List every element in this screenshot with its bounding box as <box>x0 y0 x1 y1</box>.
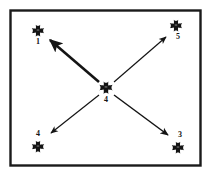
node-label-4-bottom-left: 4 <box>36 130 40 138</box>
arrow-center-to-bottom-right <box>114 95 168 135</box>
arrow-center-to-top-right <box>114 37 166 82</box>
figure-container: 1 5 4 4 3 <box>0 0 211 176</box>
cross-pattee-icon <box>32 141 44 153</box>
cross-pattee-icon <box>170 20 182 32</box>
arrow-center-to-top-left <box>50 40 99 82</box>
arrow-center-to-bottom-left <box>51 95 99 133</box>
diagram-canvas <box>0 0 211 176</box>
node-label-5: 5 <box>176 33 180 41</box>
node-label-3: 3 <box>178 131 182 139</box>
cross-pattee-icon <box>32 25 44 37</box>
cross-pattee-icon <box>172 142 184 154</box>
cross-pattee-icon <box>99 81 112 94</box>
node-label-1: 1 <box>36 38 40 46</box>
node-label-4-center: 4 <box>104 96 108 104</box>
